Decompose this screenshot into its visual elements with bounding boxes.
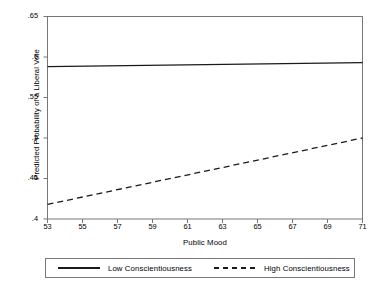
y-axis-title: Predicted Probability of a Liberal Vote [32, 10, 41, 220]
x-tick-label: 61 [176, 222, 200, 231]
x-tick-label: 65 [246, 222, 270, 231]
x-tick-label: 71 [351, 222, 375, 231]
chart-legend: Low Conscientiousness High Conscientious… [45, 258, 355, 278]
y-tick-label: .55 [16, 93, 38, 101]
x-axis-title: Public Mood [47, 238, 363, 247]
y-tick-label: .5 [16, 134, 38, 142]
legend-entry-high: High Conscientiousness [214, 259, 350, 277]
legend-label-low: Low Conscientiousness [108, 264, 192, 273]
chart-figure: Predicted Probability of a Liberal Vote … [0, 0, 379, 287]
y-axis-ticks [44, 17, 48, 220]
legend-line-solid-icon [58, 267, 100, 268]
legend-label-high: High Conscientiousness [264, 264, 350, 273]
plot-frame [48, 17, 363, 220]
series-lines [48, 63, 363, 205]
y-tick-label: .65 [16, 12, 38, 20]
x-tick-label: 57 [106, 222, 130, 231]
legend-line-dashed-icon [214, 267, 256, 268]
x-tick-label: 67 [281, 222, 305, 231]
series-line-low [48, 63, 363, 67]
x-tick-label: 53 [36, 222, 60, 231]
x-tick-label: 55 [71, 222, 95, 231]
x-tick-label: 63 [211, 222, 235, 231]
y-tick-label: .6 [16, 53, 38, 61]
x-tick-label: 69 [316, 222, 340, 231]
series-line-high [48, 138, 363, 204]
legend-entry-low: Low Conscientiousness [58, 259, 192, 277]
y-tick-label: .45 [16, 174, 38, 182]
x-tick-label: 59 [141, 222, 165, 231]
